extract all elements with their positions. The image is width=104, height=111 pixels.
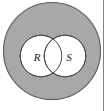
set-s-label: S bbox=[66, 51, 72, 63]
venn-diagram-canvas: Venn diagram of two overlapping sets R a… bbox=[0, 0, 104, 111]
set-r-label: R bbox=[33, 51, 41, 63]
venn-diagram-figure: Venn diagram of two overlapping sets R a… bbox=[0, 0, 104, 111]
frame-right-edge bbox=[103, 0, 104, 111]
